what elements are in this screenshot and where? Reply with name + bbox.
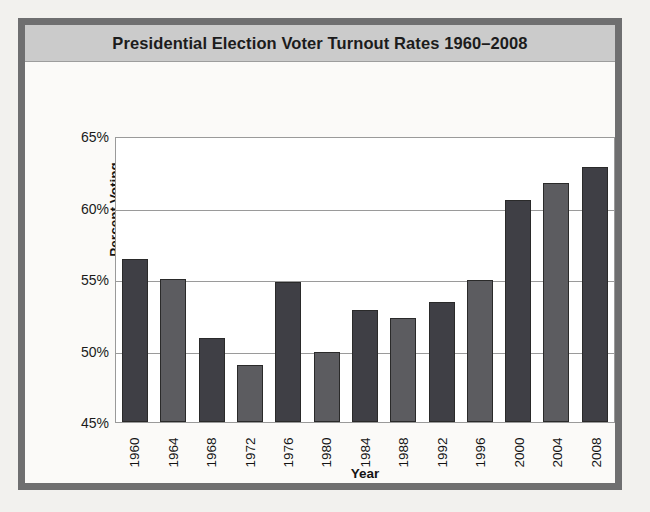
- bar: [237, 365, 263, 422]
- bar: [429, 302, 455, 422]
- x-axis-title: Year: [115, 466, 615, 481]
- chart-body: Percent Voting 65%60%55%50%45% 196019641…: [25, 62, 615, 490]
- y-axis-tick-labels: 65%60%55%50%45%: [53, 62, 109, 490]
- x-tick-label: 2008: [588, 437, 603, 467]
- bar: [122, 259, 148, 422]
- x-tick-label: 2000: [511, 437, 526, 467]
- chart-title: Presidential Election Voter Turnout Rate…: [112, 34, 527, 53]
- bar: [352, 310, 378, 422]
- bar: [314, 352, 340, 422]
- bar: [543, 183, 569, 422]
- bar: [467, 280, 493, 422]
- plot-area: [115, 137, 615, 423]
- bar: [582, 167, 608, 422]
- chart-title-bar: Presidential Election Voter Turnout Rate…: [25, 25, 615, 62]
- x-tick-label: 1988: [396, 437, 411, 467]
- x-tick-label: 1976: [281, 437, 296, 467]
- y-tick-label: 65%: [63, 129, 109, 145]
- x-tick-label: 1992: [434, 437, 449, 467]
- bar: [390, 318, 416, 422]
- bar: [199, 338, 225, 422]
- x-tick-label: 1960: [127, 437, 142, 467]
- x-tick-label: 1996: [473, 437, 488, 467]
- x-tick-label: 1980: [319, 437, 334, 467]
- x-tick-label: 1984: [357, 437, 372, 467]
- y-tick-label: 50%: [63, 344, 109, 360]
- figure-frame: Presidential Election Voter Turnout Rate…: [18, 18, 622, 490]
- bar-series: [116, 138, 614, 422]
- x-tick-label: 1964: [165, 437, 180, 467]
- y-tick-label: 60%: [63, 201, 109, 217]
- bar: [160, 279, 186, 422]
- y-tick-label: 45%: [63, 415, 109, 431]
- bar: [275, 282, 301, 422]
- x-tick-label: 2004: [550, 437, 565, 467]
- y-tick-label: 55%: [63, 272, 109, 288]
- x-tick-label: 1968: [204, 437, 219, 467]
- x-tick-label: 1972: [242, 437, 257, 467]
- bar: [505, 200, 531, 422]
